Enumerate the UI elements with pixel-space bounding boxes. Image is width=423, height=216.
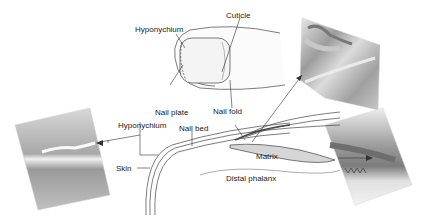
label-nail-plate: Nail plate: [155, 108, 188, 117]
label-cuticle: Cuticle: [226, 11, 250, 20]
label-nail-fold: Nail fold: [213, 107, 242, 116]
diagram-drawing: [0, 0, 423, 216]
left-micrograph: [15, 108, 110, 210]
label-skin: Skin: [116, 164, 132, 173]
label-hyponychium-top: Hyponychium: [135, 25, 183, 34]
label-nail-bed: Nail bed: [179, 124, 208, 133]
label-distal-phalanx: Distal phalanx: [226, 174, 276, 183]
sagittal-section: [146, 112, 340, 215]
label-hyponychium-side: Hyponychium: [118, 121, 166, 130]
nail-anatomy-diagram: Cuticle Hyponychium Nail plate Nail fold…: [0, 0, 423, 216]
top-right-micrograph: [300, 18, 380, 110]
label-matrix: Matrix: [256, 152, 278, 161]
